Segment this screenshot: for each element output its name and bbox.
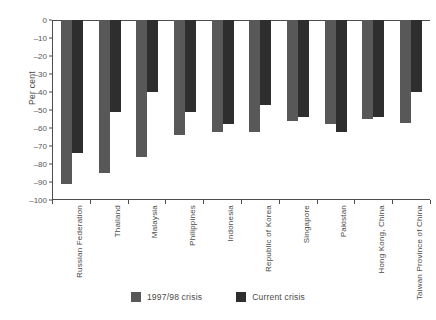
x-tick-mark [90, 200, 91, 204]
bar [373, 20, 384, 117]
y-tick-mark [49, 110, 52, 111]
y-tick-label: –60 [3, 124, 52, 133]
bar-group [166, 20, 204, 201]
x-tick-mark [430, 200, 431, 204]
y-tick-mark [49, 20, 52, 21]
x-tick-label: Thailand [113, 205, 122, 237]
bar-group [279, 20, 317, 201]
bar-group [204, 20, 242, 201]
bar [147, 20, 158, 92]
y-tick-mark [49, 128, 52, 129]
x-tick-label: Philippines [188, 205, 197, 246]
x-label-cell: Hong Kong, China [354, 205, 392, 285]
y-tick-mark [49, 74, 52, 75]
x-tick-label: Indonesia [226, 205, 235, 242]
bar [336, 20, 347, 132]
y-tick-label: –100 [3, 196, 52, 205]
bar [400, 20, 411, 123]
x-label-cell: Taiwan Province of China [392, 205, 430, 285]
bar [362, 20, 373, 119]
legend-item: Current crisis [236, 292, 305, 302]
bar [249, 20, 260, 132]
x-label-cell: Philippines [165, 205, 203, 285]
x-axis-labels: Russian FederationThailandMalaysiaPhilip… [52, 205, 430, 285]
bar [185, 20, 196, 112]
x-tick-label: Malaysia [150, 205, 159, 238]
x-tick-mark [52, 200, 53, 204]
y-tick-label: –30 [3, 70, 52, 79]
bar [212, 20, 223, 132]
x-tick-label: Taiwan Province of China [415, 205, 424, 300]
x-tick-mark [203, 200, 204, 204]
y-tick-mark [49, 38, 52, 39]
legend-label: Current crisis [252, 292, 305, 302]
bar [287, 20, 298, 121]
y-tick-mark [49, 146, 52, 147]
x-label-cell: Republic of Korea [241, 205, 279, 285]
x-tick-mark [241, 200, 242, 204]
x-tick-label: Pakistan [339, 205, 348, 237]
bar-group [355, 20, 393, 201]
chart-legend: 1997/98 crisisCurrent crisis [0, 292, 436, 302]
y-tick-label: –20 [3, 52, 52, 61]
bar [99, 20, 110, 173]
bar [298, 20, 309, 117]
legend-item: 1997/98 crisis [131, 292, 202, 302]
bar-group [317, 20, 355, 201]
legend-swatch [236, 292, 246, 302]
bar [223, 20, 234, 124]
bar [260, 20, 271, 105]
x-label-cell: Russian Federation [52, 205, 90, 285]
x-tick-mark [128, 200, 129, 204]
x-tick-mark [392, 200, 393, 204]
bar-group [242, 20, 280, 201]
x-tick-label: Republic of Korea [264, 205, 273, 272]
bar [325, 20, 336, 124]
bar-chart: Per cent 0–10–20–30–40–50–60–70–80–90–10… [0, 0, 436, 320]
bar [110, 20, 121, 112]
y-tick-label: –90 [3, 178, 52, 187]
bar-group [128, 20, 166, 201]
bar-group [91, 20, 129, 201]
x-tick-label: Hong Kong, China [377, 205, 386, 274]
y-tick-mark [49, 182, 52, 183]
legend-label: 1997/98 crisis [147, 292, 202, 302]
y-tick-label: –80 [3, 160, 52, 169]
y-tick-label: –50 [3, 106, 52, 115]
x-tick-mark [317, 200, 318, 204]
y-tick-label: –70 [3, 142, 52, 151]
bar [61, 20, 72, 184]
bar-groups [53, 20, 430, 201]
x-tick-mark [279, 200, 280, 204]
bar [411, 20, 422, 92]
x-label-cell: Singapore [279, 205, 317, 285]
x-label-cell: Malaysia [128, 205, 166, 285]
y-tick-mark [49, 56, 52, 57]
bar [136, 20, 147, 157]
x-tick-label: Singapore [302, 205, 311, 243]
x-tick-mark [165, 200, 166, 204]
x-tick-label: Russian Federation [75, 205, 84, 278]
bar [174, 20, 185, 135]
y-tick-label: –40 [3, 88, 52, 97]
x-label-cell: Indonesia [203, 205, 241, 285]
plot-area: 0–10–20–30–40–50–60–70–80–90–100 [52, 20, 430, 200]
bar-group [392, 20, 430, 201]
x-tick-mark [354, 200, 355, 204]
y-tick-mark [49, 164, 52, 165]
bar [72, 20, 83, 153]
bar-group [53, 20, 91, 201]
y-tick-mark [49, 92, 52, 93]
x-label-cell: Thailand [90, 205, 128, 285]
y-tick-label: –10 [3, 34, 52, 43]
x-label-cell: Pakistan [317, 205, 355, 285]
y-tick-label: 0 [3, 16, 52, 25]
legend-swatch [131, 292, 141, 302]
